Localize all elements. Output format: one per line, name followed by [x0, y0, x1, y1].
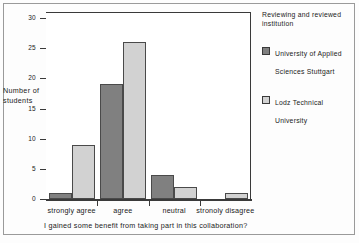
- bar: [72, 145, 95, 199]
- y-tick-label: 25: [12, 44, 36, 52]
- y-tick-label: 20: [12, 74, 36, 82]
- legend-entry: University of Applied Sciences Stuttgart: [262, 42, 354, 78]
- legend-label: Lodz Technical University: [275, 99, 323, 124]
- legend-swatch-icon: [262, 96, 270, 104]
- y-tick-label-text: 10: [14, 135, 36, 142]
- bar: [225, 193, 248, 199]
- y-tick-label-text: 15: [14, 105, 36, 112]
- bar: [100, 84, 123, 199]
- bar: [49, 193, 72, 199]
- y-tick-label-text: 25: [14, 44, 36, 51]
- x-axis-category-label: agree: [113, 206, 132, 215]
- chart-legend: Reviewing and reviewed institution Unive…: [262, 10, 354, 140]
- y-tick-label-text: 30: [14, 14, 36, 21]
- y-tick-label-text: 0: [14, 195, 36, 202]
- legend-label: University of Applied Sciences Stuttgart: [275, 50, 342, 75]
- y-tick-label-text: 5: [14, 165, 36, 172]
- legend-title: Reviewing and reviewed institution: [262, 10, 354, 28]
- y-axis-title: Number of students: [3, 86, 45, 105]
- y-tick-label: 5: [12, 165, 36, 173]
- y-tick-label: 0: [12, 195, 36, 203]
- chart-figure: Number of students 051015202530 strongly…: [0, 0, 359, 243]
- x-tick-mark: [149, 201, 150, 206]
- bar: [151, 175, 174, 199]
- y-tick-label: 10: [12, 135, 36, 143]
- x-axis-category-label: strongly agree: [47, 206, 95, 215]
- bar: [174, 187, 197, 199]
- x-tick-mark: [97, 201, 98, 206]
- x-axis-category-label: stronoly disagree: [196, 206, 254, 215]
- legend-swatch-icon: [262, 47, 270, 55]
- plot-area: [46, 12, 251, 199]
- y-tick-label-text: 20: [14, 74, 36, 81]
- legend-entry: Lodz Technical University: [262, 91, 354, 127]
- legend-entries: University of Applied Sciences Stuttgart…: [262, 42, 354, 127]
- x-axis-category-label: neutral: [162, 206, 185, 215]
- y-tick-label: 15: [12, 105, 36, 113]
- y-tick-mark: [40, 199, 47, 200]
- y-tick-label: 30: [12, 14, 36, 22]
- x-axis-caption: I gained some benefit from taking part i…: [44, 221, 247, 230]
- bar: [123, 42, 146, 199]
